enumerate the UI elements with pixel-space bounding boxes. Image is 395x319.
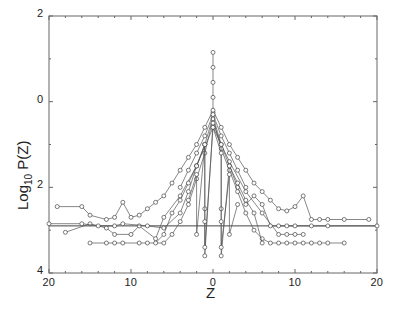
data-point — [293, 241, 297, 245]
data-point — [88, 213, 92, 217]
data-point — [219, 254, 223, 258]
data-point — [268, 224, 272, 228]
x-tick-label: 20 — [371, 276, 383, 288]
data-point — [80, 222, 84, 226]
y-tick-label: 2 — [37, 7, 43, 19]
data-point — [88, 241, 92, 245]
data-point — [219, 151, 223, 155]
data-point — [154, 241, 158, 245]
data-point — [154, 200, 158, 204]
x-tick-label: 20 — [43, 276, 55, 288]
data-point — [285, 224, 289, 228]
data-point — [137, 213, 141, 217]
data-point — [162, 215, 166, 219]
data-point — [203, 125, 207, 129]
data-point — [137, 241, 141, 245]
x-axis-label: Z — [206, 284, 215, 301]
data-point — [268, 198, 272, 202]
data-point — [154, 237, 158, 241]
data-point — [285, 232, 289, 236]
y-tick-label: 0 — [37, 93, 43, 105]
data-point — [186, 190, 190, 194]
data-point — [113, 215, 117, 219]
data-point — [203, 220, 207, 224]
data-point — [252, 211, 256, 215]
data-point — [203, 134, 207, 138]
data-point — [170, 211, 174, 215]
data-point — [227, 151, 231, 155]
data-point — [252, 194, 256, 198]
data-point — [178, 168, 182, 172]
data-point — [162, 194, 166, 198]
data-point — [260, 241, 264, 245]
data-point — [219, 245, 223, 249]
data-point — [309, 241, 313, 245]
data-point — [211, 121, 215, 125]
data-point — [285, 209, 289, 213]
data-point — [326, 217, 330, 221]
data-point — [186, 198, 190, 202]
chart-plot — [0, 0, 395, 319]
data-point — [318, 217, 322, 221]
data-point — [211, 113, 215, 117]
data-point — [219, 125, 223, 129]
data-point — [244, 211, 248, 215]
data-point — [170, 232, 174, 236]
data-point — [162, 241, 166, 245]
data-point — [268, 241, 272, 245]
data-point — [203, 143, 207, 147]
data-point — [195, 143, 199, 147]
data-point — [145, 207, 149, 211]
data-point — [227, 143, 231, 147]
data-point — [186, 181, 190, 185]
data-point — [104, 217, 108, 221]
data-point — [318, 241, 322, 245]
data-point — [285, 241, 289, 245]
y-axis-label: Log10 P(Z) — [14, 141, 34, 210]
data-point — [342, 217, 346, 221]
data-point — [219, 143, 223, 147]
data-point — [219, 220, 223, 224]
data-point — [236, 181, 240, 185]
data-point — [96, 224, 100, 228]
data-point — [326, 224, 330, 228]
data-point — [260, 190, 264, 194]
data-point — [145, 224, 149, 228]
data-point — [211, 65, 215, 69]
series-s1 — [211, 50, 215, 114]
data-point — [293, 224, 297, 228]
data-point — [55, 205, 59, 209]
data-point — [309, 224, 313, 228]
data-point — [301, 241, 305, 245]
data-point — [293, 232, 297, 236]
data-point — [211, 108, 215, 112]
data-point — [219, 134, 223, 138]
data-point — [252, 228, 256, 232]
data-point — [195, 151, 199, 155]
data-point — [170, 181, 174, 185]
data-point — [162, 226, 166, 230]
data-point — [227, 172, 231, 176]
data-point — [277, 232, 281, 236]
data-point — [301, 194, 305, 198]
x-tick-label: 10 — [125, 276, 137, 288]
data-point — [80, 205, 84, 209]
data-point — [293, 205, 297, 209]
data-point — [121, 241, 125, 245]
data-point — [277, 241, 281, 245]
series-layer — [47, 50, 379, 257]
data-point — [236, 168, 240, 172]
data-point — [211, 80, 215, 84]
data-point — [211, 125, 215, 129]
data-point — [260, 211, 264, 215]
data-point — [129, 232, 133, 236]
data-point — [211, 50, 215, 54]
x-tick-label: 10 — [289, 276, 301, 288]
data-point — [244, 198, 248, 202]
data-point — [186, 202, 190, 206]
data-point — [375, 224, 379, 228]
data-point — [178, 211, 182, 215]
data-point — [113, 224, 117, 228]
data-point — [236, 202, 240, 206]
data-point — [244, 202, 248, 206]
